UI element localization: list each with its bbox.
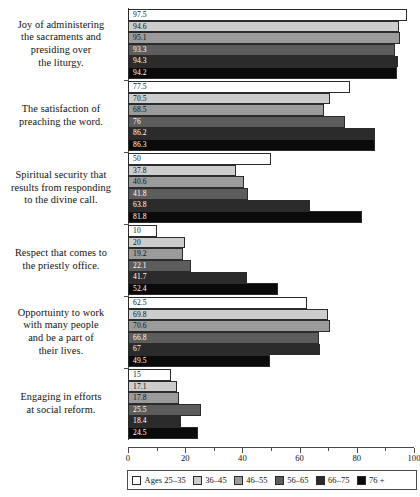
bar-row: 86.2 bbox=[128, 128, 414, 140]
legend-item[interactable]: Ages 25–35 bbox=[132, 476, 186, 485]
bar-value-label: 50 bbox=[133, 155, 141, 163]
bar: 18.4 bbox=[128, 416, 181, 428]
bar-value-label: 69.8 bbox=[133, 311, 147, 319]
bar: 10 bbox=[128, 225, 157, 237]
bar: 94.3 bbox=[128, 56, 398, 68]
group-separator-tick bbox=[124, 368, 129, 369]
bar-row: 94.6 bbox=[128, 21, 414, 33]
legend-swatch bbox=[193, 476, 202, 485]
bar-value-label: 68.5 bbox=[133, 106, 147, 114]
bar-value-label: 19.2 bbox=[133, 250, 147, 258]
bar-row: 86.3 bbox=[128, 139, 414, 151]
bar-value-label: 17.1 bbox=[133, 383, 147, 391]
bar-value-label: 81.8 bbox=[133, 213, 147, 221]
bar: 17.8 bbox=[128, 392, 179, 404]
bar-value-label: 70.5 bbox=[133, 95, 147, 103]
bar-row: 22.1 bbox=[128, 260, 414, 272]
bar-row: 63.8 bbox=[128, 200, 414, 212]
bar-value-label: 18.4 bbox=[133, 417, 147, 425]
bar-row: 69.8 bbox=[128, 309, 414, 321]
group-separator-tick bbox=[124, 224, 129, 225]
bar-value-label: 70.6 bbox=[133, 322, 147, 330]
category-axis-labels: Joy of administeringthe sacraments andpr… bbox=[0, 8, 124, 440]
x-tick-label: 60 bbox=[295, 453, 304, 463]
bar-value-label: 76 bbox=[133, 118, 141, 126]
legend-item[interactable]: 46–55 bbox=[234, 476, 268, 485]
bar: 86.3 bbox=[128, 139, 375, 151]
legend-label: 76 + bbox=[369, 476, 385, 485]
bar: 76 bbox=[128, 116, 345, 128]
bar-row: 67 bbox=[128, 344, 414, 356]
bar: 17.1 bbox=[128, 381, 177, 393]
bar-value-label: 97.5 bbox=[133, 11, 147, 19]
bar-value-label: 49.5 bbox=[133, 357, 147, 365]
bar: 22.1 bbox=[128, 260, 191, 272]
bar-value-label: 63.8 bbox=[133, 201, 147, 209]
bar-group: 102019.222.141.752.4 bbox=[128, 225, 414, 295]
bar: 49.5 bbox=[128, 355, 270, 367]
bar-row: 37.8 bbox=[128, 165, 414, 177]
plot-area: 97.594.695.193.394.394.277.570.568.57686… bbox=[128, 8, 414, 440]
bar-value-label: 25.5 bbox=[133, 406, 147, 414]
bar-row: 94.3 bbox=[128, 56, 414, 68]
x-tick-label: 0 bbox=[126, 453, 130, 463]
bar-row: 68.5 bbox=[128, 104, 414, 116]
legend-item[interactable]: 76 + bbox=[357, 476, 385, 485]
x-tick-minor bbox=[157, 448, 158, 451]
bar-value-label: 37.8 bbox=[133, 167, 147, 175]
bar: 15 bbox=[128, 369, 171, 381]
bar-group: 5037.840.641.863.881.8 bbox=[128, 153, 414, 223]
bar: 94.6 bbox=[128, 21, 399, 33]
group-separator-tick bbox=[124, 80, 129, 81]
bar-row: 94.2 bbox=[128, 67, 414, 79]
bar-value-label: 24.5 bbox=[133, 429, 147, 437]
bar: 81.8 bbox=[128, 211, 362, 223]
x-tick-label: 40 bbox=[238, 453, 247, 463]
bar-row: 52.4 bbox=[128, 283, 414, 295]
bar-row: 17.1 bbox=[128, 381, 414, 393]
bar-row: 49.5 bbox=[128, 355, 414, 367]
bar: 97.5 bbox=[128, 9, 407, 21]
bar-row: 62.5 bbox=[128, 297, 414, 309]
bar-value-label: 94.2 bbox=[133, 69, 147, 77]
bar: 94.2 bbox=[128, 67, 397, 79]
bar-row: 70.5 bbox=[128, 93, 414, 105]
x-tick-minor bbox=[385, 448, 386, 451]
category-label: Respect that comes tothe priestly office… bbox=[0, 247, 122, 272]
bar: 62.5 bbox=[128, 297, 307, 309]
bar-group: 97.594.695.193.394.394.2 bbox=[128, 9, 414, 79]
legend-item[interactable]: 66–75 bbox=[316, 476, 350, 485]
bar: 86.2 bbox=[128, 128, 375, 140]
bar-row: 81.8 bbox=[128, 211, 414, 223]
bar-group: 62.569.870.666.86749.5 bbox=[128, 297, 414, 367]
bar-value-label: 86.2 bbox=[133, 129, 147, 137]
bar-row: 20 bbox=[128, 237, 414, 249]
bar: 41.7 bbox=[128, 272, 247, 284]
bar-value-label: 94.6 bbox=[133, 23, 147, 31]
bar-row: 76 bbox=[128, 116, 414, 128]
legend-label: 66–75 bbox=[328, 476, 349, 485]
bar-row: 41.7 bbox=[128, 272, 414, 284]
bar-group: 77.570.568.57686.286.3 bbox=[128, 81, 414, 151]
bar-row: 18.4 bbox=[128, 416, 414, 428]
bar-value-label: 40.6 bbox=[133, 178, 147, 186]
bar-value-label: 93.3 bbox=[133, 46, 147, 54]
bar-value-label: 52.4 bbox=[133, 285, 147, 293]
bar-value-label: 94.3 bbox=[133, 57, 147, 65]
legend-item[interactable]: 36–45 bbox=[193, 476, 227, 485]
bar-row: 24.5 bbox=[128, 427, 414, 439]
x-tick-label: 80 bbox=[353, 453, 362, 463]
bar-value-label: 22.1 bbox=[133, 262, 147, 270]
bar: 20 bbox=[128, 237, 185, 249]
bar-row: 40.6 bbox=[128, 176, 414, 188]
legend-swatch bbox=[234, 476, 243, 485]
x-tick-minor bbox=[328, 448, 329, 451]
bar: 63.8 bbox=[128, 200, 310, 212]
legend-swatch bbox=[316, 476, 325, 485]
legend-item[interactable]: 56–65 bbox=[275, 476, 309, 485]
bar: 50 bbox=[128, 153, 271, 165]
bar-value-label: 62.5 bbox=[133, 299, 147, 307]
bar-row: 97.5 bbox=[128, 9, 414, 21]
bar-row: 15 bbox=[128, 369, 414, 381]
legend-label: 36–45 bbox=[205, 476, 226, 485]
